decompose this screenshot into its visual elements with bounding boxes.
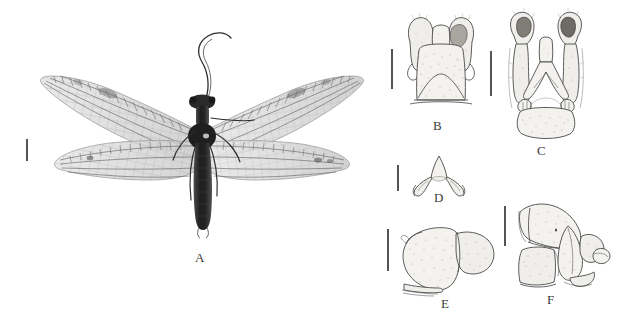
panel-f-terminalia-lateral-alt <box>508 198 618 298</box>
head-thorax <box>188 95 216 150</box>
panel-e-terminalia-lateral <box>394 222 509 302</box>
panel-label-e: E <box>441 296 449 312</box>
panel-label-c: C <box>537 143 546 159</box>
panel-label-f: F <box>547 292 555 308</box>
panel-b-terminalia-dorsal <box>396 12 486 122</box>
panel-label-d: D <box>434 190 444 206</box>
panel-a-habitus <box>30 10 370 255</box>
scale-bar-e <box>387 229 389 271</box>
abdomen <box>194 143 212 238</box>
scale-bar-a <box>26 139 28 161</box>
panel-label-b: B <box>433 118 442 134</box>
panel-c-terminalia-ventral <box>496 8 596 148</box>
antenna <box>199 33 231 98</box>
scale-bar-c <box>490 51 492 96</box>
right-hindwing <box>206 141 350 180</box>
left-hindwing <box>55 141 199 180</box>
figure-plate: A <box>0 0 625 333</box>
panel-label-a: A <box>195 250 205 266</box>
scale-bar-f <box>504 206 506 246</box>
scale-bar-b <box>391 49 393 89</box>
scale-bar-d <box>397 165 399 191</box>
